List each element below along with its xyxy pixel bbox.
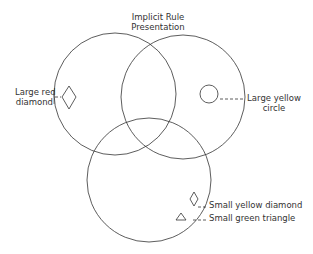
small-green-triangle-icon	[176, 213, 186, 220]
label-line: diamond	[15, 97, 53, 107]
title-line-1: Implicit Rule	[118, 12, 198, 22]
label-large-red-diamond: Large red diamond	[15, 87, 53, 107]
label-line: Large red	[15, 87, 53, 97]
large-red-diamond-icon	[62, 86, 76, 109]
label-line: Large yellow	[245, 93, 303, 103]
label-small-green-triangle: Small green triangle	[209, 213, 295, 223]
label-line: circle	[245, 103, 303, 113]
circle-bottom	[87, 118, 211, 242]
small-yellow-diamond-icon	[190, 192, 198, 206]
circle-top-right	[121, 35, 245, 159]
large-yellow-circle-icon	[200, 85, 218, 103]
circle-top-left	[54, 33, 176, 155]
diagram-title: Implicit Rule Presentation	[118, 12, 198, 32]
label-small-yellow-diamond: Small yellow diamond	[209, 200, 302, 210]
title-line-2: Presentation	[118, 22, 198, 32]
label-large-yellow-circle: Large yellow circle	[245, 93, 303, 113]
